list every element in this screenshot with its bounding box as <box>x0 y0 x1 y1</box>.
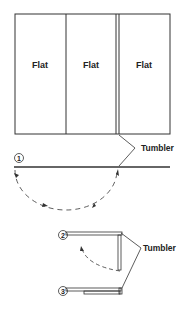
step-number: 3 <box>61 288 65 295</box>
plan-view-folding <box>66 232 122 270</box>
fold-arc-dashed <box>82 249 120 271</box>
flats-elevation <box>15 14 170 134</box>
tumbler-label: Tumbler <box>143 243 177 253</box>
fold-arc-dashed <box>15 170 117 210</box>
step-number: 1 <box>17 155 21 162</box>
arrow-head <box>42 203 48 207</box>
flat-label: Flat <box>32 60 48 70</box>
flat-tumbler-diagram: Flat Flat Flat Tumbler 1 2 3 Tumbler <box>0 0 189 311</box>
tumbler-label: Tumbler <box>141 143 175 153</box>
arrow-head <box>14 173 19 178</box>
flats-outline <box>15 14 170 134</box>
tumbler-callout-lines <box>121 233 141 288</box>
step-number: 2 <box>61 232 65 239</box>
flat-label: Flat <box>136 60 152 70</box>
arrow-head <box>80 246 84 251</box>
tumbler-callout-lines <box>119 135 135 166</box>
flat-label: Flat <box>83 60 99 70</box>
plan-view-folded <box>66 288 122 294</box>
